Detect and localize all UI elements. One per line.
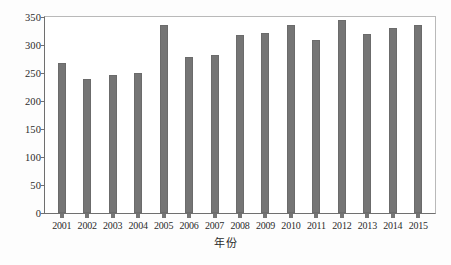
- bar-2006[interactable]: [185, 57, 193, 213]
- x-axis-label-2010: 2010: [278, 219, 303, 233]
- y-axis-tick: 300: [25, 39, 44, 51]
- y-axis-tick-label: 0: [36, 208, 44, 220]
- bar-slot: [278, 17, 303, 213]
- x-axis-tick-mark: [340, 214, 344, 218]
- bar-slot: [406, 17, 431, 213]
- x-axis-label-2009: 2009: [253, 219, 278, 233]
- bar-2002[interactable]: [83, 79, 91, 213]
- y-axis-tick-label: 300: [25, 40, 44, 52]
- bar-slot: [151, 17, 176, 213]
- x-axis-title: 年份: [0, 236, 451, 250]
- x-axis-label-2006: 2006: [176, 219, 201, 233]
- bar-slot: [329, 17, 354, 213]
- bar-2012[interactable]: [338, 20, 346, 213]
- bar-slot: [176, 17, 201, 213]
- bar-2009[interactable]: [261, 33, 269, 213]
- y-axis-tick-label: 250: [25, 68, 44, 80]
- y-axis-tick: 50: [30, 179, 44, 191]
- x-axis-label-2008: 2008: [227, 219, 252, 233]
- x-axis-tick-mark: [60, 214, 64, 218]
- y-axis-tick-label: 50: [30, 180, 44, 192]
- x-axis-label-2007: 2007: [202, 219, 227, 233]
- x-axis-label-2015: 2015: [406, 219, 431, 233]
- x-axis-tick-mark: [263, 214, 267, 218]
- y-axis: 050100150200250300350: [0, 16, 44, 214]
- x-axis-tick-mark: [187, 214, 191, 218]
- x-axis-tick-mark: [365, 214, 369, 218]
- x-axis-tick-mark: [213, 214, 217, 218]
- bar-slot: [49, 17, 74, 213]
- x-axis-tick-labels: 2001200220032004200520062007200820092010…: [45, 219, 435, 233]
- x-axis-tick-mark: [85, 214, 89, 218]
- bar-slot: [74, 17, 99, 213]
- bar-2010[interactable]: [287, 25, 295, 213]
- bar-2005[interactable]: [160, 25, 168, 213]
- x-axis-tick-mark: [391, 214, 395, 218]
- x-axis-tick-mark: [289, 214, 293, 218]
- bar-2001[interactable]: [58, 63, 66, 213]
- x-axis-label-2003: 2003: [100, 219, 125, 233]
- y-axis-tick: 250: [25, 67, 44, 79]
- x-axis-label-2005: 2005: [151, 219, 176, 233]
- y-axis-tick: 100: [25, 151, 44, 163]
- x-axis-tick-mark: [238, 214, 242, 218]
- bars-container: [45, 17, 435, 213]
- y-axis-tick: 0: [36, 207, 44, 219]
- y-axis-tick: 350: [25, 11, 44, 23]
- x-axis-label-2004: 2004: [125, 219, 150, 233]
- y-axis-tick-label: 350: [25, 12, 44, 24]
- bar-slot: [380, 17, 405, 213]
- bar-2008[interactable]: [236, 35, 244, 213]
- x-axis-tick-mark: [162, 214, 166, 218]
- y-axis-tick: 150: [25, 123, 44, 135]
- bar-slot: [227, 17, 252, 213]
- x-axis-label-2013: 2013: [355, 219, 380, 233]
- bar-2007[interactable]: [211, 55, 219, 213]
- bar-slot: [100, 17, 125, 213]
- x-axis-tick-mark: [111, 214, 115, 218]
- bar-2003[interactable]: [109, 75, 117, 213]
- bar-slot: [304, 17, 329, 213]
- bar-2014[interactable]: [389, 28, 397, 213]
- x-axis-label-2001: 2001: [49, 219, 74, 233]
- y-axis-tick: 200: [25, 95, 44, 107]
- x-axis-label-2002: 2002: [74, 219, 99, 233]
- bar-2011[interactable]: [312, 40, 320, 213]
- bar-slot: [202, 17, 227, 213]
- y-axis-tick-label: 200: [25, 96, 44, 108]
- bar-2015[interactable]: [414, 25, 422, 213]
- y-axis-tick-label: 100: [25, 152, 44, 164]
- y-axis-tick-label: 150: [25, 124, 44, 136]
- x-axis-tick-mark: [136, 214, 140, 218]
- bar-2004[interactable]: [134, 73, 142, 213]
- x-axis-tick-mark: [314, 214, 318, 218]
- bar-slot: [355, 17, 380, 213]
- bar-2013[interactable]: [363, 34, 371, 213]
- x-axis-label-2012: 2012: [329, 219, 354, 233]
- x-axis-label-2011: 2011: [304, 219, 329, 233]
- bar-slot: [253, 17, 278, 213]
- bar-chart: 050100150200250300350 200120022003200420…: [0, 0, 451, 265]
- x-axis-tick-mark: [416, 214, 420, 218]
- x-axis-label-2014: 2014: [380, 219, 405, 233]
- bar-slot: [125, 17, 150, 213]
